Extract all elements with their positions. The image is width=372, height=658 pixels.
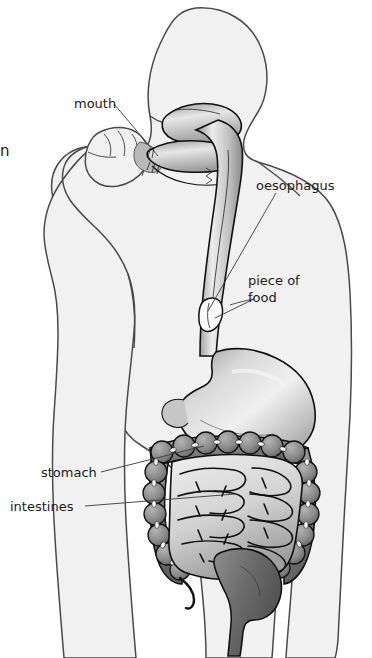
label-oesophagus: oesophagus: [256, 178, 335, 193]
label-mouth: mouth: [74, 96, 116, 111]
label-intestines: intestines: [10, 499, 74, 514]
label-stomach: stomach: [41, 465, 97, 480]
diagram-canvas: n mouth oesophagus piece of food stomach…: [0, 0, 372, 658]
label-piece-of-food-line1: piece of: [248, 273, 300, 288]
digestive-system-illustration: n mouth oesophagus piece of food stomach…: [0, 0, 372, 658]
cropped-edge-letter: n: [0, 142, 10, 160]
label-piece-of-food-line2: food: [248, 290, 277, 305]
